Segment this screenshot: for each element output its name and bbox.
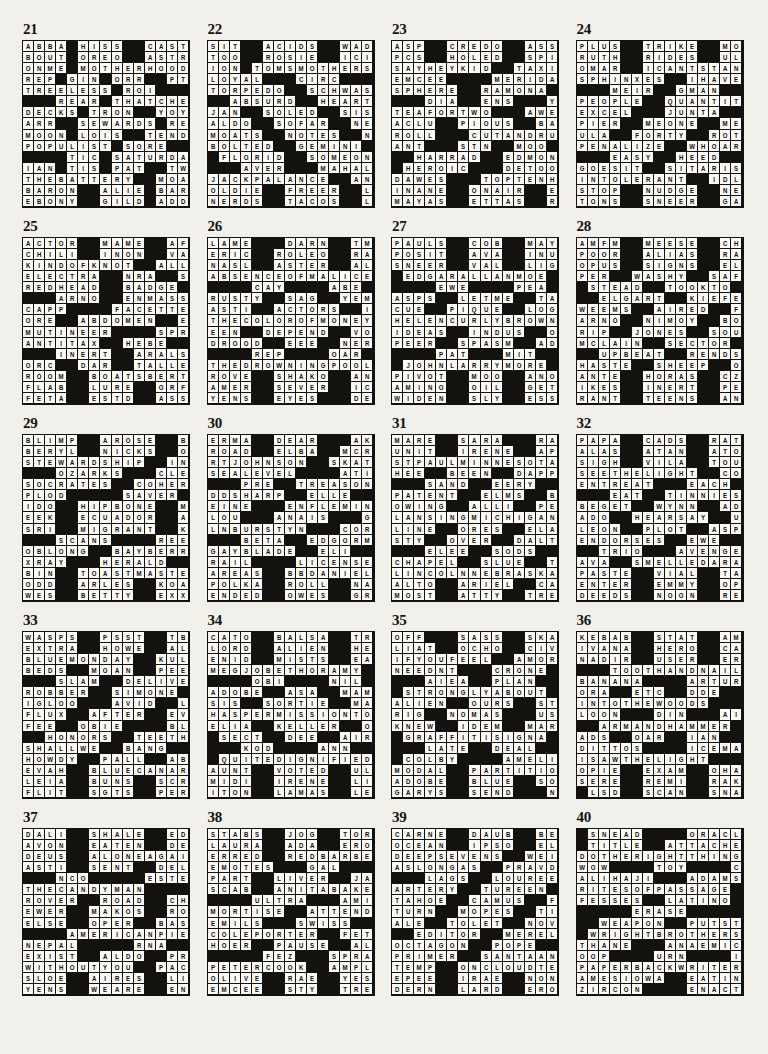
grid-letter-cell: E xyxy=(403,338,414,349)
grid-letter-cell: A xyxy=(296,895,307,906)
grid-letter-cell: A xyxy=(676,895,687,906)
grid-letter-cell: E xyxy=(45,884,56,895)
grid-letter-cell: E xyxy=(230,360,241,371)
grid-letter-cell: N xyxy=(403,721,414,732)
grid-letter-cell: L xyxy=(208,74,219,85)
grid-letter-cell: O xyxy=(307,665,318,676)
grid-letter-cell: D xyxy=(731,501,742,512)
grid-letter-cell: R xyxy=(167,546,178,557)
grid-letter-cell: E xyxy=(145,873,156,884)
grid-letter-cell: I xyxy=(274,676,285,687)
grid-letter-cell: K xyxy=(89,260,100,271)
grid-letter-cell: L xyxy=(34,382,45,393)
grid-letter-cell: R xyxy=(167,118,178,129)
grid-letter-cell: A xyxy=(285,840,296,851)
grid-block xyxy=(481,676,492,687)
grid-block xyxy=(643,338,654,349)
grid-block xyxy=(621,63,632,74)
grid-letter-cell: E xyxy=(23,271,34,282)
grid-block xyxy=(112,271,123,282)
grid-block xyxy=(632,304,643,315)
grid-block xyxy=(709,951,720,962)
grid-block xyxy=(720,754,731,765)
grid-block xyxy=(536,479,547,490)
grid-letter-cell: A xyxy=(621,873,632,884)
grid-block xyxy=(219,479,230,490)
grid-letter-cell: S xyxy=(481,632,492,643)
grid-letter-cell: O xyxy=(351,152,362,163)
grid-letter-cell: R xyxy=(643,85,654,96)
grid-letter-cell: L xyxy=(392,524,403,535)
grid-letter-cell: A xyxy=(67,457,78,468)
grid-block xyxy=(241,895,252,906)
grid-block xyxy=(145,787,156,798)
grid-block xyxy=(318,282,329,293)
grid-letter-cell: P xyxy=(23,141,34,152)
grid-block xyxy=(654,546,665,557)
grid-letter-cell: M xyxy=(208,906,219,917)
grid-letter-cell: E xyxy=(731,118,742,129)
grid-letter-cell: A xyxy=(362,951,373,962)
grid-letter-cell: V xyxy=(720,74,731,85)
grid-block xyxy=(252,446,263,457)
grid-letter-cell: D xyxy=(425,929,436,940)
grid-letter-cell: R xyxy=(351,535,362,546)
grid-letter-cell: A xyxy=(436,271,447,282)
grid-block xyxy=(632,709,643,720)
grid-letter-cell: F xyxy=(307,315,318,326)
grid-letter-cell: O xyxy=(687,643,698,654)
grid-block xyxy=(458,829,469,840)
grid-letter-cell: R xyxy=(599,776,610,787)
grid-block xyxy=(263,293,274,304)
grid-block xyxy=(123,732,134,743)
grid-letter-cell: C xyxy=(156,96,167,107)
grid-letter-cell: B xyxy=(632,962,643,973)
grid-block xyxy=(156,501,167,512)
grid-block xyxy=(318,435,329,446)
grid-block xyxy=(665,984,676,995)
grid-letter-cell: E xyxy=(351,973,362,984)
grid-letter-cell: P xyxy=(654,884,665,895)
grid-letter-cell: A xyxy=(492,271,503,282)
grid-block xyxy=(167,501,178,512)
grid-letter-cell: Y xyxy=(208,393,219,404)
grid-letter-cell: R xyxy=(178,327,189,338)
grid-letter-cell: A xyxy=(285,687,296,698)
grid-letter-cell: A xyxy=(67,643,78,654)
grid-block xyxy=(23,349,34,360)
grid-letter-cell: S xyxy=(731,490,742,501)
grid-letter-cell: A xyxy=(208,271,219,282)
grid-block xyxy=(145,906,156,917)
grid-letter-cell: V xyxy=(45,895,56,906)
grid-letter-cell: T xyxy=(599,479,610,490)
grid-letter-cell: E xyxy=(219,665,230,676)
grid-letter-cell: N xyxy=(687,590,698,601)
grid-block xyxy=(156,74,167,85)
grid-block xyxy=(436,338,447,349)
grid-letter-cell: W xyxy=(469,107,480,118)
grid-letter-cell: D xyxy=(156,862,167,873)
grid-letter-cell: P xyxy=(577,435,588,446)
grid-letter-cell: A xyxy=(329,962,340,973)
grid-block xyxy=(296,951,307,962)
grid-block xyxy=(307,962,318,973)
grid-letter-cell: O xyxy=(458,962,469,973)
grid-letter-cell: S xyxy=(577,185,588,196)
grid-letter-cell: U xyxy=(112,765,123,776)
grid-block xyxy=(274,687,285,698)
grid-letter-cell: T xyxy=(219,457,230,468)
grid-letter-cell: G xyxy=(392,787,403,798)
grid-letter-cell: A xyxy=(547,74,558,85)
grid-letter-cell: A xyxy=(252,490,263,501)
grid-letter-cell: T xyxy=(230,304,241,315)
grid-letter-cell: N xyxy=(676,951,687,962)
grid-letter-cell: E xyxy=(307,338,318,349)
grid-letter-cell: W xyxy=(654,698,665,709)
grid-letter-cell: E xyxy=(89,840,100,851)
grid-block xyxy=(709,468,720,479)
grid-letter-cell: B xyxy=(45,687,56,698)
grid-block xyxy=(156,118,167,129)
grid-block xyxy=(362,862,373,873)
grid-letter-cell: S xyxy=(123,776,134,787)
grid-block xyxy=(414,479,425,490)
